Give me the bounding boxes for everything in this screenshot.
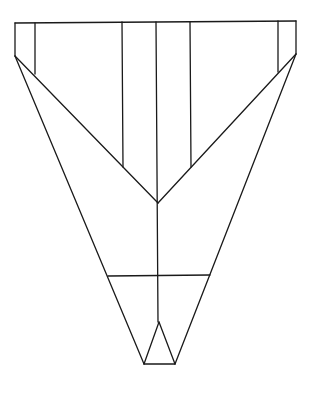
- nose-right-line: [159, 322, 175, 364]
- paper-airplane-diagram: [0, 0, 309, 404]
- nose-left-line: [144, 322, 159, 364]
- right-diagonal-line: [158, 54, 296, 203]
- left-body-edge-line: [15, 56, 144, 364]
- right-inner-fold-line: [190, 22, 191, 167]
- right-body-edge-line: [175, 54, 296, 364]
- left-inner-fold-line: [122, 22, 123, 167]
- cross-fold-line: [108, 275, 210, 276]
- center-fold-line: [156, 22, 158, 322]
- left-diagonal-line: [15, 56, 158, 203]
